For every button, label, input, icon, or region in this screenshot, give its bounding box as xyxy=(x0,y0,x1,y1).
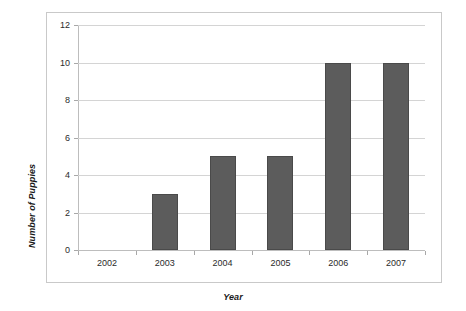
y-tick-label: 2 xyxy=(42,208,70,218)
chart-container: Number of Puppies 0246810122002200320042… xyxy=(0,0,466,311)
gridline xyxy=(78,25,425,26)
gridline xyxy=(78,138,425,139)
x-tick-mark xyxy=(309,251,310,255)
y-tick-label-wrap: 2 xyxy=(42,208,70,218)
bar-2004 xyxy=(210,156,236,250)
x-tick-label: 2007 xyxy=(367,258,425,269)
x-tick-label: 2006 xyxy=(309,258,367,269)
x-tick-mark xyxy=(78,251,79,255)
y-tick-label-wrap: 4 xyxy=(42,170,70,180)
bar-2006 xyxy=(325,63,351,251)
gridline xyxy=(78,250,425,251)
y-tick-label-wrap: 6 xyxy=(42,133,70,143)
x-tick-mark xyxy=(252,251,253,255)
bar-2007 xyxy=(383,63,409,251)
x-tick-label: 2002 xyxy=(78,258,136,269)
y-tick-label: 12 xyxy=(42,20,70,30)
gridline xyxy=(78,213,425,214)
x-tick-label: 2003 xyxy=(136,258,194,269)
gridline xyxy=(78,175,425,176)
gridline xyxy=(78,63,425,64)
bar-2005 xyxy=(267,156,293,250)
bar-2003 xyxy=(152,194,178,250)
y-axis-title: Number of Puppies xyxy=(27,48,41,248)
x-tick-mark xyxy=(367,251,368,255)
gridline xyxy=(78,100,425,101)
y-tick-label: 0 xyxy=(42,245,70,255)
x-axis-title: Year xyxy=(0,292,466,302)
y-tick-label-wrap: 12 xyxy=(42,20,70,30)
plot-area xyxy=(78,25,425,250)
x-tick-label: 2004 xyxy=(194,258,252,269)
y-tick-label: 8 xyxy=(42,95,70,105)
y-tick-label: 4 xyxy=(42,170,70,180)
y-tick-label: 10 xyxy=(42,58,70,68)
y-tick-label-wrap: 8 xyxy=(42,95,70,105)
y-tick-label-wrap: 0 xyxy=(42,245,70,255)
y-tick-label-wrap: 10 xyxy=(42,58,70,68)
x-tick-mark xyxy=(194,251,195,255)
x-tick-label: 2005 xyxy=(252,258,310,269)
x-tick-mark xyxy=(136,251,137,255)
x-tick-mark xyxy=(425,251,426,255)
y-tick-label: 6 xyxy=(42,133,70,143)
